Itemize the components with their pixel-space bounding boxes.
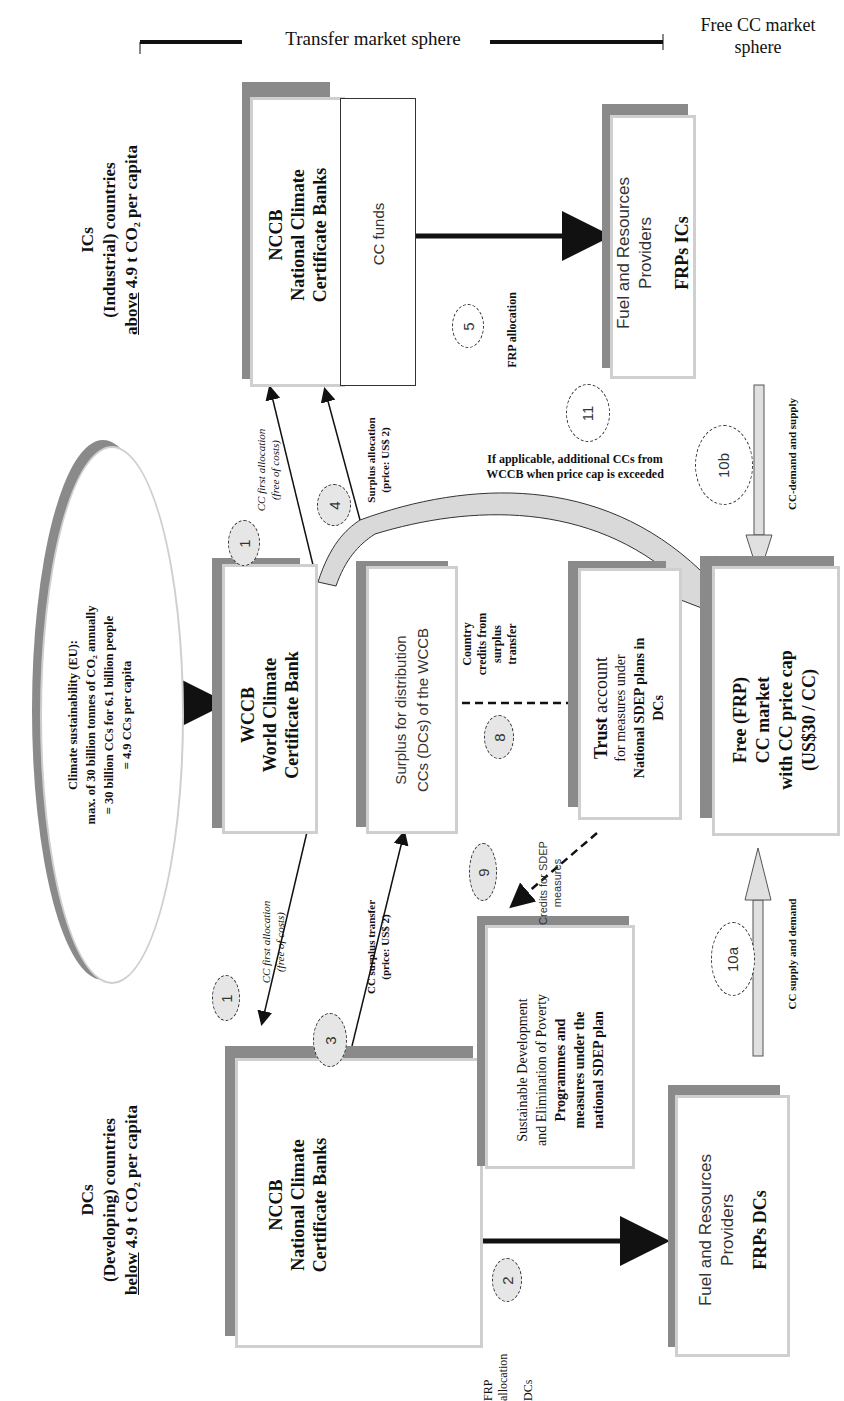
supply-demand-label: CC supply and demand xyxy=(783,889,801,1019)
credits-sdep-line2: measures xyxy=(550,859,564,907)
frp-alloc-dc-line2: allocation xyxy=(496,1354,511,1401)
step-5-label: 5 xyxy=(460,322,477,330)
nccb-ic-line2: National Climate xyxy=(287,169,309,300)
additional-line2: WCCB when price cap is exceeded xyxy=(430,467,720,482)
surplus-alloc-line2: (price: US$ 2) xyxy=(378,427,392,492)
step-3-bubble: 3 xyxy=(313,1013,347,1067)
country-credits-label: Country credits from surplus transfer xyxy=(456,594,524,694)
frp-dc-line1: Fuel and Resources xyxy=(695,1154,717,1306)
step-10b-label: 10b xyxy=(716,452,733,477)
free-sphere-line1: Free CC market xyxy=(672,14,844,36)
first-alloc-dc-line1: CC first allocation xyxy=(259,901,273,984)
country-credits-line3: surplus xyxy=(490,625,505,663)
dcs-line2: (Developing) countries xyxy=(99,1118,121,1282)
surplus-alloc-line1: Surplus allocation xyxy=(364,417,378,502)
trust-text: Trust account for measures under Nationa… xyxy=(582,588,678,828)
step-8-label: 8 xyxy=(491,733,508,741)
sdep-line5: national SDEP plan xyxy=(589,1011,608,1129)
nccb-dc-line1: NCCB xyxy=(265,1180,287,1231)
dcs-line3-rest: 4.9 t CO₂ per capita xyxy=(122,1105,141,1252)
trust-bold: Trust xyxy=(591,717,611,759)
nccb-dc-line3: Certificate Banks xyxy=(309,1138,331,1272)
step-10a-label: 10a xyxy=(725,946,742,971)
step-4-label: 4 xyxy=(326,501,343,509)
step-1-dc-bubble: 1 xyxy=(212,975,240,1021)
step-10a-bubble: 10a xyxy=(711,922,755,996)
dcs-line3: below 4.9 t CO₂ per capita xyxy=(121,1105,143,1295)
step-10b-bubble: 10b xyxy=(695,425,753,505)
ellipse-line3: = 30 billion CCs for 6.1 billion people xyxy=(100,616,118,815)
credits-sdep-label: Credits for SDEP measures xyxy=(533,833,567,933)
frp-allocation-ic-label: FRP allocation xyxy=(502,270,522,390)
sdep-line1: Sustainable Development xyxy=(513,998,532,1141)
step-3-label: 3 xyxy=(322,1036,339,1044)
wccb-line3: Certificate Bank xyxy=(281,651,303,778)
free-market-line3: with CC price cap xyxy=(775,650,798,789)
frp-dc-text: Fuel and Resources Providers FRPs DCs xyxy=(683,1105,783,1355)
wccb-line2: World Climate xyxy=(259,658,281,773)
dcs-below: below xyxy=(122,1252,141,1295)
dcs-line1: DCs xyxy=(77,1184,99,1215)
frp-alloc-dc-line3: DCs xyxy=(521,1380,536,1401)
step-8-bubble: 8 xyxy=(484,715,514,759)
sdep-line4: measures under the xyxy=(570,1012,589,1129)
surplus-line1: Surplus for distribution xyxy=(390,635,412,784)
frp-alloc-dc-line1: FRP xyxy=(481,1380,496,1401)
nccb-ic-line1: NCCB xyxy=(265,210,287,261)
cc-funds-label: CC funds xyxy=(366,164,390,304)
trust-line3: National SDEP plans in xyxy=(630,638,649,778)
frp-ic-line2: Providers xyxy=(635,217,657,289)
additional-line1: If applicable, additional CCs from xyxy=(430,452,720,467)
step-11-label: 11 xyxy=(579,405,596,421)
step-9-bubble: 9 xyxy=(469,843,497,901)
first-alloc-ic-line2: (free of costs) xyxy=(268,440,282,500)
step-1-ic-label: 1 xyxy=(236,539,253,547)
ics-above: above xyxy=(122,292,141,335)
ellipse-line4: = 4.9 CCs per capita xyxy=(118,661,136,770)
free-market-line4: (US$30 / CC) xyxy=(798,669,821,771)
free-market-line2: CC market xyxy=(752,677,775,763)
step-1-dc-label: 1 xyxy=(218,994,235,1002)
frp-ic-line1: Fuel and Resources xyxy=(613,177,635,329)
country-credits-line2: credits from xyxy=(475,613,490,676)
surplus-transfer-label: CC surplus transfer (price: US$ 2) xyxy=(361,887,395,1007)
transfer-sphere-label: Transfer market sphere xyxy=(258,28,488,50)
frp-allocation-dc-label: FRP allocation DCs xyxy=(477,1321,539,1401)
additional-ccs-label: If applicable, additional CCs from WCCB … xyxy=(430,452,720,482)
trust-line4: DCs xyxy=(649,695,668,721)
ics-line3-rest: 4.9 t CO₂ per capita xyxy=(122,145,141,292)
ellipse-line1: Climate sustainability (EU): xyxy=(64,640,82,790)
ics-line3: above 4.9 t CO₂ per capita xyxy=(121,145,143,335)
ics-line1: ICs xyxy=(77,227,99,253)
frp-dc-line3: FRPs DCs xyxy=(749,1190,771,1270)
nccb-ic-line3: Certificate Banks xyxy=(309,168,331,302)
country-credits-line1: Country xyxy=(460,622,475,665)
sdep-line2: and Elimination of Poverty xyxy=(532,994,551,1146)
step-1-ic-bubble: 1 xyxy=(228,520,260,566)
sdep-line3: Programmes and xyxy=(551,1019,570,1122)
step-11-bubble: 11 xyxy=(566,384,610,442)
frp-dc-line2: Providers xyxy=(717,1194,739,1266)
free-sphere-label: Free CC market sphere xyxy=(672,14,844,58)
first-alloc-ic-line1: CC first allocation xyxy=(254,429,268,512)
nccb-dc-text: NCCB National Climate Certificate Banks xyxy=(253,1065,343,1345)
first-allocation-dc-label: CC first allocation (free of costs) xyxy=(256,887,290,997)
ellipse-text: Climate sustainability (EU): max. of 30 … xyxy=(55,525,145,905)
nccb-ic-text: NCCB National Climate Certificate Banks xyxy=(253,95,343,375)
wccb-line1: WCCB xyxy=(237,687,259,743)
country-credits-line4: transfer xyxy=(505,623,520,664)
step-2-bubble: 2 xyxy=(492,1258,522,1302)
free-market-text: Free (FRP) CC market with CC price cap (… xyxy=(725,595,825,845)
free-sphere-line2: sphere xyxy=(672,36,844,58)
free-market-line1: Free (FRP) xyxy=(729,677,752,763)
surplus-allocation-label: Surplus allocation (price: US$ 2) xyxy=(358,400,398,520)
ellipse-line2: max. of 30 billion tonnes of CO₂ annuall… xyxy=(82,605,100,824)
trust-rest: account xyxy=(591,657,611,717)
sdep-text: Sustainable Development and Elimination … xyxy=(490,950,630,1190)
ics-group-label: ICs (Industrial) countries above 4.9 t C… xyxy=(70,90,150,390)
ics-line2: (Industrial) countries xyxy=(99,162,121,317)
nccb-dc-line2: National Climate xyxy=(287,1139,309,1270)
frp-ic-line3: FRPs ICs xyxy=(671,216,693,290)
step-5-bubble: 5 xyxy=(452,304,484,348)
step-4-bubble: 4 xyxy=(317,484,351,526)
